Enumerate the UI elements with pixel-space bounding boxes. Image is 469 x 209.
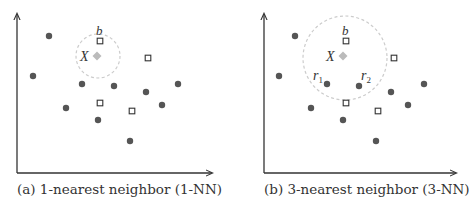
class-dot-point bbox=[356, 83, 362, 89]
knn-figure: bX(a) 1-nearest neighbor (1-NN) bXr1r2(b… bbox=[0, 0, 469, 209]
class-square-point bbox=[391, 55, 397, 61]
class-dot-point bbox=[79, 81, 85, 87]
class-dot-point bbox=[111, 83, 117, 89]
class-dot-point bbox=[324, 81, 330, 87]
class-square-point bbox=[145, 55, 151, 61]
point-label: X bbox=[79, 49, 89, 64]
class-dot-point bbox=[175, 81, 181, 87]
class-dot-point bbox=[308, 105, 314, 111]
point-label: b bbox=[342, 23, 349, 38]
class-square-point bbox=[375, 108, 381, 114]
point-label: r2 bbox=[361, 68, 371, 85]
class-dot-point bbox=[95, 117, 101, 123]
class-dot-point bbox=[340, 117, 346, 123]
class-dot-point bbox=[63, 105, 69, 111]
class-square-point bbox=[129, 108, 135, 114]
class-dot-point bbox=[276, 73, 282, 79]
class-square-point bbox=[343, 38, 349, 44]
panel-3nn: bXr1r2(b) 3-nearest neighbor (3-NN) bbox=[264, 14, 469, 197]
point-label: r1 bbox=[313, 68, 323, 85]
class-square-point bbox=[343, 100, 349, 106]
class-dot-point bbox=[30, 73, 36, 79]
class-dot-point bbox=[159, 102, 165, 108]
class-dot-point bbox=[405, 102, 411, 108]
panel-caption: (b) 3-nearest neighbor (3-NN) bbox=[264, 181, 469, 197]
query-diamond-icon bbox=[339, 52, 348, 61]
point-label: X bbox=[325, 49, 335, 64]
class-square-point bbox=[97, 100, 103, 106]
class-dot-point bbox=[143, 89, 149, 95]
class-dot-point bbox=[373, 138, 379, 144]
class-dot-point bbox=[292, 33, 298, 39]
class-dot-point bbox=[388, 89, 394, 95]
class-dot-point bbox=[46, 33, 52, 39]
panel-caption: (a) 1-nearest neighbor (1-NN) bbox=[17, 181, 222, 197]
class-dot-point bbox=[127, 138, 133, 144]
class-square-point bbox=[97, 38, 103, 44]
class-dot-point bbox=[421, 81, 427, 87]
point-label: b bbox=[96, 23, 103, 38]
query-diamond-icon bbox=[93, 52, 102, 61]
panel-1nn: bX(a) 1-nearest neighbor (1-NN) bbox=[17, 14, 222, 197]
